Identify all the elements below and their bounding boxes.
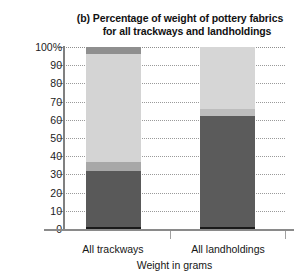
x-axis-tick-1 (285, 231, 286, 239)
chart-screenshot: (b) Percentage of weight of pottery fabr… (0, 0, 308, 277)
x-axis-category-label-1: All landholdings (168, 243, 288, 255)
y-axis-label-50: 50 (50, 133, 62, 143)
bar-all-landholdings (200, 47, 255, 229)
bar-segment-light-fabric (86, 54, 141, 161)
bar-segment-dark-fabric (200, 116, 255, 229)
x-axis-tick-0 (170, 231, 171, 239)
bar-baseline (200, 227, 255, 229)
bar-all-trackways (86, 47, 141, 229)
plot-area: 100%9080706050403020100 (0, 0, 308, 277)
x-axis-category-label-0: All trackways (53, 243, 173, 255)
x-axis-line (44, 229, 294, 231)
y-axis-label-100: 100% (35, 42, 62, 52)
bar-segment-mid-fabric (200, 109, 255, 116)
bar-segment-dark-fabric (86, 171, 141, 229)
y-axis-label-30: 30 (50, 169, 62, 179)
y-axis-label-70: 70 (50, 97, 62, 107)
y-axis-label-80: 80 (50, 78, 62, 88)
y-axis-line (63, 46, 65, 230)
bar-segment-light-fabric (200, 47, 255, 109)
y-axis-label-90: 90 (50, 60, 62, 70)
y-axis-label-60: 60 (50, 115, 62, 125)
bar-baseline (86, 227, 141, 229)
bar-segment-cap-fabric (86, 47, 141, 54)
bar-segment-mid-fabric (86, 162, 141, 171)
x-axis-title: Weight in grams (64, 259, 285, 271)
y-axis-label-10: 10 (50, 206, 62, 216)
y-axis-label-40: 40 (50, 151, 62, 161)
y-axis-label-20: 20 (50, 188, 62, 198)
